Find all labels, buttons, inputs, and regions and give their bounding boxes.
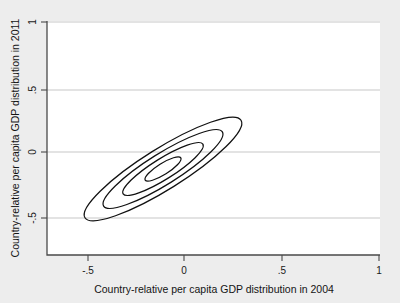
x-tick-label-neg-0-5: -.5: [82, 265, 94, 276]
plot-area-background: [47, 21, 380, 255]
x-axis-title: Country-relative per capita GDP distribu…: [94, 283, 334, 295]
x-tick-label-0-5: .5: [278, 265, 287, 276]
y-tick-marks: [41, 22, 47, 218]
y-tick-label-0-5: .5: [27, 85, 38, 94]
y-tick-label-1: 1: [27, 19, 38, 25]
y-tick-labels: 1 .5 0 -.5: [27, 19, 38, 224]
y-tick-label-neg-0-5: -.5: [27, 212, 38, 224]
x-tick-marks: [88, 255, 379, 261]
contour-plot-figure: 1 .5 0 -.5 -.5 0 .5 1 Country-relative p…: [0, 0, 400, 303]
x-tick-labels: -.5 0 .5 1: [82, 265, 382, 276]
x-tick-label-1: 1: [376, 265, 382, 276]
chart-canvas: 1 .5 0 -.5 -.5 0 .5 1 Country-relative p…: [0, 0, 400, 303]
x-tick-label-0: 0: [181, 265, 187, 276]
y-tick-label-0: 0: [27, 149, 38, 155]
y-axis-title: Country-relative per capita GDP distribu…: [9, 18, 21, 257]
